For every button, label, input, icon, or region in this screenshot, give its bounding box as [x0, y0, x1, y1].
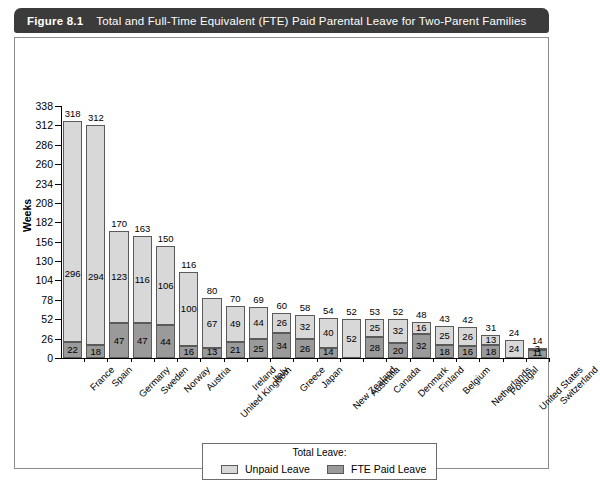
bar-total-label: 60: [272, 300, 291, 311]
bar-group[interactable]: 22296318: [63, 121, 82, 358]
bar-total-label: 163: [133, 223, 152, 234]
bar-segment-unpaid[interactable]: 26: [458, 327, 477, 346]
bar-segment-paid[interactable]: 47: [109, 323, 128, 358]
bar-segment-unpaid[interactable]: 13: [481, 335, 500, 345]
bar-segment-unpaid[interactable]: 116: [133, 236, 152, 322]
bar-total-label: 58: [295, 302, 314, 313]
bar-value-paid: 14: [323, 347, 334, 357]
x-tick-mark: [247, 358, 248, 362]
bar-segment-paid[interactable]: 44: [156, 325, 175, 358]
bar-group[interactable]: 263258: [295, 315, 314, 358]
x-tick-mark: [340, 358, 341, 362]
bar-segment-paid[interactable]: 26: [295, 339, 314, 358]
bar-segment-paid[interactable]: 18: [435, 345, 454, 358]
x-tick-mark: [84, 358, 85, 362]
y-tick-mark: [55, 222, 61, 223]
bar-segment-unpaid[interactable]: 106: [156, 246, 175, 325]
bar-value-paid: 16: [184, 347, 195, 357]
bar-segment-unpaid[interactable]: 49: [226, 306, 245, 343]
bar-segment-unpaid[interactable]: 32: [388, 319, 407, 343]
bar-segment-unpaid[interactable]: 123: [109, 231, 128, 323]
bar-total-label: 52: [388, 306, 407, 317]
bar-group[interactable]: 11314: [528, 348, 547, 358]
bar-group[interactable]: 181331: [481, 335, 500, 358]
legend-label-unpaid: Unpaid Leave: [245, 463, 310, 475]
bar-segment-unpaid[interactable]: 16: [412, 322, 431, 334]
bar-segment-paid[interactable]: 21: [226, 342, 245, 358]
bar-total-label: 43: [435, 313, 454, 324]
y-tick-label: 0: [21, 352, 53, 364]
bar-segment-unpaid[interactable]: 3: [528, 348, 547, 350]
bar-segment-paid[interactable]: 34: [272, 333, 291, 358]
bar-group[interactable]: 342660: [272, 313, 291, 358]
bar-segment-paid[interactable]: 25: [249, 339, 268, 358]
bar-group[interactable]: 2424: [505, 340, 524, 358]
bar-value-unpaid: 44: [253, 318, 264, 328]
bar-group[interactable]: 136780: [202, 298, 221, 358]
x-tick-mark: [433, 358, 434, 362]
bar-segment-paid[interactable]: 22: [63, 342, 82, 358]
bar-segment-paid[interactable]: 13: [202, 348, 221, 358]
y-tick-mark: [55, 106, 61, 107]
bar-segment-paid[interactable]: 16: [458, 346, 477, 358]
bar-segment-unpaid[interactable]: 294: [86, 125, 105, 344]
bar-total-label: 69: [249, 294, 268, 305]
bar-value-unpaid: 25: [369, 323, 380, 333]
bar-group[interactable]: 321648: [412, 322, 431, 358]
x-tick-mark: [386, 358, 387, 362]
bar-group[interactable]: 203252: [388, 319, 407, 358]
bar-segment-unpaid[interactable]: 67: [202, 298, 221, 348]
bar-value-unpaid: 32: [393, 326, 404, 336]
bar-segment-paid[interactable]: 18: [86, 345, 105, 358]
bar-group[interactable]: 47123170: [109, 231, 128, 358]
bar-group[interactable]: 182543: [435, 326, 454, 358]
bar-group[interactable]: 18294312: [86, 125, 105, 358]
bar-value-unpaid: 16: [416, 323, 427, 333]
bar-group[interactable]: 44106150: [156, 246, 175, 358]
bar-group[interactable]: 16100116: [179, 272, 198, 358]
bar-group[interactable]: 214970: [226, 306, 245, 358]
bar-segment-unpaid[interactable]: 32: [295, 315, 314, 339]
bar-segment-unpaid[interactable]: 40: [319, 318, 338, 348]
bar-segment-unpaid[interactable]: 296: [63, 121, 82, 342]
bar-value-unpaid: 26: [462, 332, 473, 342]
bar-segment-unpaid[interactable]: 24: [505, 340, 524, 358]
y-tick-mark: [55, 261, 61, 262]
bar-value-unpaid: 296: [65, 269, 81, 279]
bar-segment-paid[interactable]: 47: [133, 323, 152, 358]
bar-group[interactable]: 5252: [342, 319, 361, 358]
bar-group[interactable]: 47116163: [133, 236, 152, 358]
y-tick-mark: [55, 280, 61, 281]
legend-label-paid: FTE Paid Leave: [351, 463, 426, 475]
x-axis-line: [61, 358, 549, 359]
bar-segment-paid[interactable]: 28: [365, 337, 384, 358]
x-tick-mark: [154, 358, 155, 362]
bar-segment-unpaid[interactable]: 44: [249, 307, 268, 340]
bar-segment-unpaid[interactable]: 100: [179, 272, 198, 347]
bar-value-paid: 25: [253, 344, 264, 354]
bar-total-label: 52: [342, 306, 361, 317]
bar-segment-unpaid[interactable]: 52: [342, 319, 361, 358]
bar-group[interactable]: 144054: [319, 318, 338, 358]
bar-segment-paid[interactable]: 16: [179, 346, 198, 358]
bar-segment-paid[interactable]: 20: [388, 343, 407, 358]
bar-total-label: 53: [365, 306, 384, 317]
legend-swatch-unpaid: [221, 465, 238, 474]
legend-item-paid: FTE Paid Leave: [327, 463, 426, 475]
y-tick-mark: [55, 203, 61, 204]
x-tick-mark: [410, 358, 411, 362]
bar-group[interactable]: 254469: [249, 307, 268, 358]
bar-total-label: 24: [505, 327, 524, 338]
bar-group[interactable]: 162642: [458, 327, 477, 358]
bar-segment-unpaid[interactable]: 25: [435, 326, 454, 345]
y-tick-label: 234: [21, 178, 53, 190]
y-tick-label: 52: [21, 313, 53, 325]
bar-segment-paid[interactable]: 32: [412, 334, 431, 358]
bar-group[interactable]: 282553: [365, 319, 384, 359]
bar-segment-paid[interactable]: 14: [319, 348, 338, 358]
bar-segment-unpaid[interactable]: 26: [272, 313, 291, 332]
bar-segment-unpaid[interactable]: 25: [365, 319, 384, 338]
bar-segment-paid[interactable]: 18: [481, 345, 500, 358]
x-tick-mark: [526, 358, 527, 362]
